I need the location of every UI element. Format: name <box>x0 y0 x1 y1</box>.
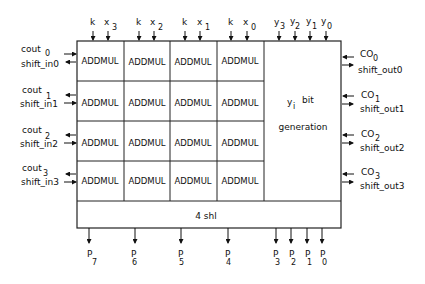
svg-text:shift_in1: shift_in1 <box>20 99 58 109</box>
shift-block-label: 4 shl <box>195 211 216 221</box>
svg-text:7: 7 <box>92 258 97 267</box>
addmul-array-diagram: ADDMUL ADDMUL ADDMUL ADDMUL ADDMUL ADDMU… <box>0 0 425 284</box>
svg-text:x: x <box>243 17 249 27</box>
svg-text:2: 2 <box>295 22 300 31</box>
svg-text:CO: CO <box>361 167 374 177</box>
svg-text:1: 1 <box>307 258 312 267</box>
addmul-cell: ADDMUL <box>174 138 211 148</box>
addmul-cell: ADDMUL <box>81 98 118 108</box>
svg-text:x: x <box>104 17 110 27</box>
outer-block <box>77 41 341 228</box>
svg-text:2: 2 <box>375 134 380 143</box>
svg-text:shift_out1: shift_out1 <box>360 104 404 114</box>
addmul-cell: ADDMUL <box>81 176 118 186</box>
svg-text:cout: cout <box>22 163 42 173</box>
addmul-cell: ADDMUL <box>81 56 118 66</box>
svg-text:x: x <box>197 17 203 27</box>
svg-text:k: k <box>90 17 96 27</box>
svg-text:bit: bit <box>302 95 314 105</box>
svg-text:0: 0 <box>322 258 327 267</box>
top-inputs: k x 3 k x 2 k x 1 k x 0 <box>90 17 256 40</box>
svg-text:k: k <box>136 17 142 27</box>
svg-text:k: k <box>182 17 188 27</box>
svg-text:cout: cout <box>21 44 41 54</box>
svg-text:shift_in0: shift_in0 <box>21 59 59 69</box>
svg-text:3: 3 <box>280 22 285 31</box>
svg-text:2: 2 <box>158 23 163 32</box>
svg-text:k: k <box>228 17 234 27</box>
right-ports: CO 0 shift_out0 CO 1 shift_out1 CO 2 shi… <box>342 49 404 191</box>
addmul-cell: ADDMUL <box>81 138 118 148</box>
svg-text:0: 0 <box>327 22 332 31</box>
addmul-cell: ADDMUL <box>174 57 211 67</box>
svg-text:cout: cout <box>22 85 42 95</box>
svg-text:shift_in3: shift_in3 <box>21 177 59 187</box>
svg-text:3: 3 <box>112 23 117 32</box>
ybit-generation-block: y i bit generation <box>279 95 328 132</box>
svg-text:2: 2 <box>291 258 296 267</box>
addmul-cell: ADDMUL <box>221 176 258 186</box>
svg-text:shift_out0: shift_out0 <box>358 65 403 75</box>
svg-text:4: 4 <box>226 258 231 267</box>
svg-text:0: 0 <box>373 54 378 63</box>
svg-text:generation: generation <box>279 122 328 132</box>
svg-text:CO: CO <box>361 90 374 100</box>
svg-text:0: 0 <box>45 49 50 58</box>
svg-text:5: 5 <box>179 258 184 267</box>
y-inputs: y 3 y 2 y 1 y 0 <box>274 16 332 40</box>
svg-text:1: 1 <box>205 23 210 32</box>
svg-text:3: 3 <box>275 258 280 267</box>
addmul-cell: ADDMUL <box>221 98 258 108</box>
svg-text:CO: CO <box>360 49 373 59</box>
product-outputs: P 7 P 6 P 5 P 4 P 3 P 2 P 1 P 0 <box>87 228 327 267</box>
svg-text:shift_out2: shift_out2 <box>360 143 404 153</box>
left-ports: cout 0 shift_in0 cout 1 shift_in1 cout 2… <box>20 44 76 187</box>
addmul-cell: ADDMUL <box>221 56 258 66</box>
addmul-cell: ADDMUL <box>174 176 211 186</box>
svg-text:CO: CO <box>361 129 374 139</box>
svg-text:cout: cout <box>22 125 42 135</box>
addmul-cell: ADDMUL <box>128 176 165 186</box>
svg-text:0: 0 <box>251 23 256 32</box>
svg-text:shift_in2: shift_in2 <box>20 139 58 149</box>
svg-text:shift_out3: shift_out3 <box>360 181 404 191</box>
svg-text:3: 3 <box>375 172 380 181</box>
addmul-cell: ADDMUL <box>128 57 165 67</box>
addmul-cell: ADDMUL <box>128 138 165 148</box>
svg-text:6: 6 <box>132 258 137 267</box>
svg-text:1: 1 <box>312 22 317 31</box>
svg-text:i: i <box>293 102 295 111</box>
addmul-cell: ADDMUL <box>221 138 258 148</box>
addmul-cell: ADDMUL <box>174 98 211 108</box>
addmul-cell: ADDMUL <box>128 98 165 108</box>
svg-text:x: x <box>150 17 156 27</box>
svg-text:1: 1 <box>375 95 380 104</box>
